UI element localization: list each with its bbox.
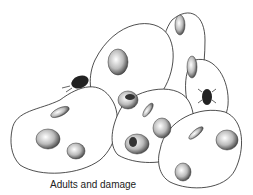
damage-hole (153, 118, 171, 138)
damage-hole (125, 134, 149, 154)
bean (11, 87, 117, 173)
damage-hole (108, 49, 128, 75)
damage-hole (175, 15, 185, 35)
caption: Adults and damage (50, 179, 136, 190)
bean-illustration (0, 0, 253, 195)
damage-hole (175, 163, 191, 181)
damage-hole (67, 143, 85, 159)
damage-hole (187, 56, 197, 78)
damage-hole (216, 130, 238, 150)
damage-hole (118, 91, 138, 109)
damage-hole (36, 129, 60, 149)
